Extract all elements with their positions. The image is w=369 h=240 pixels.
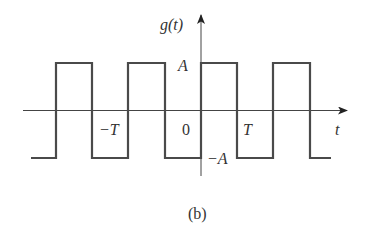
tick-neg-T-label: −T	[99, 121, 120, 138]
figure-caption: (b)	[188, 205, 207, 223]
tick-T-label: T	[243, 121, 253, 138]
square-wave-figure: g(t) A −T 0 T t −A (b)	[0, 0, 369, 240]
level-low-label: −A	[207, 150, 228, 167]
y-axis-label: g(t)	[160, 16, 183, 34]
tick-zero-label: 0	[182, 121, 190, 138]
x-axis-label: t	[335, 121, 340, 138]
level-high-label: A	[177, 57, 188, 74]
